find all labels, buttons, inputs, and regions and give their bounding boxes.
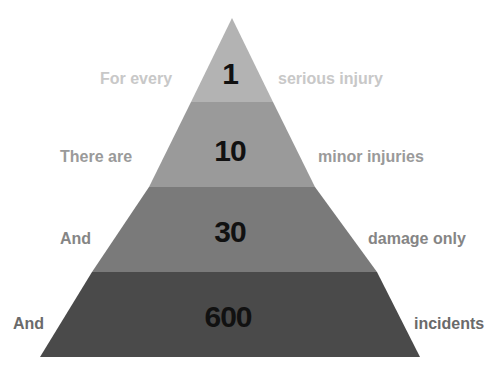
level-1-right-text: serious injury xyxy=(278,70,383,88)
level-4-left-text: And xyxy=(13,315,44,333)
level-3-number: 30 xyxy=(214,215,245,249)
level-1-left-text: For every xyxy=(100,70,172,88)
level-1-number: 1 xyxy=(222,57,238,91)
accident-pyramid-diagram: For every 1 serious injury There are 10 … xyxy=(0,0,496,366)
level-2-right-text: minor injuries xyxy=(318,148,424,166)
level-4-number: 600 xyxy=(204,300,251,334)
level-3-right-text: damage only xyxy=(368,230,466,248)
level-2-number: 10 xyxy=(214,134,245,168)
level-2-left-text: There are xyxy=(60,148,132,166)
level-3-left-text: And xyxy=(60,230,91,248)
level-4-right-text: incidents xyxy=(414,315,484,333)
